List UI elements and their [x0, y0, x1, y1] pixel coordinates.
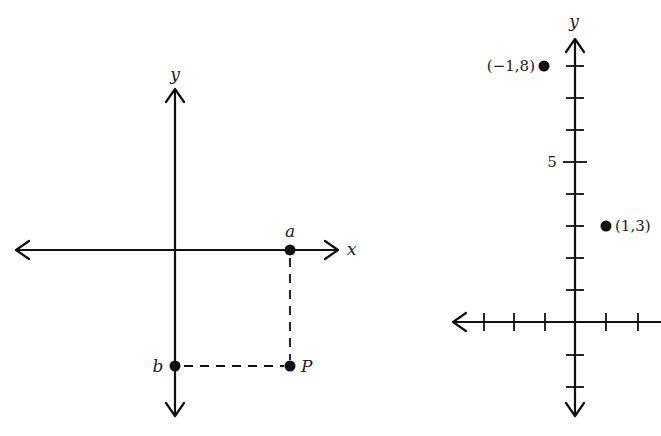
- point-1-3-label: (1,3): [615, 217, 651, 235]
- point-neg1-8: [539, 61, 550, 72]
- point-p-label: P: [300, 356, 313, 376]
- point-a: [285, 245, 296, 256]
- y-axis-label-right: y: [568, 11, 579, 31]
- point-p: [285, 361, 296, 372]
- point-1-3: [601, 221, 612, 232]
- y-tick-label-5: 5: [547, 153, 557, 171]
- point-b-label: b: [153, 356, 164, 376]
- right-coordinate-plane: y 5 (−1,8) (1,3): [453, 11, 661, 416]
- point-b: [170, 361, 181, 372]
- y-axis-label: y: [169, 64, 180, 84]
- coordinate-diagrams: y x a b P: [0, 0, 661, 436]
- x-axis-label: x: [347, 239, 357, 259]
- left-coordinate-plane: y x a b P: [16, 64, 357, 416]
- point-a-label: a: [285, 221, 295, 241]
- point-neg1-8-label: (−1,8): [487, 57, 535, 75]
